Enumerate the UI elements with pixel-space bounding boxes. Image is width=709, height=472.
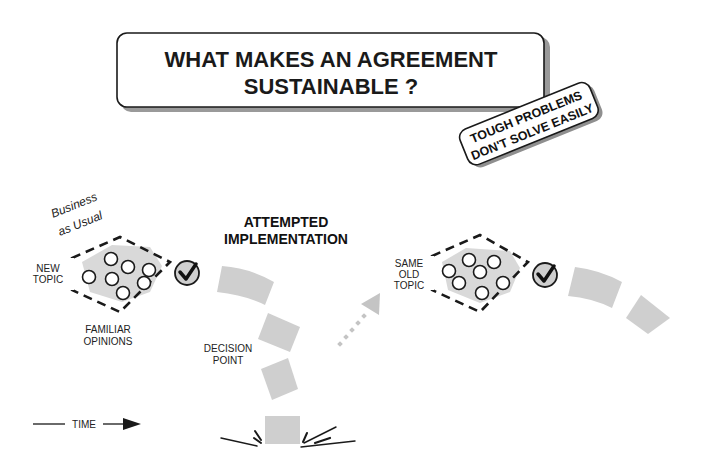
attempted-implementation: ATTEMPTED IMPLEMENTATION DECISION POINT xyxy=(204,214,380,447)
opinion-circle xyxy=(122,261,135,274)
timeline: TIME xyxy=(33,418,141,430)
falling-segment-right-2 xyxy=(626,295,670,334)
same-old-topic-line-3: TOPIC xyxy=(394,280,424,291)
arrow-head-icon xyxy=(361,293,380,315)
opinion-circle xyxy=(105,253,118,266)
falling-segment-1 xyxy=(217,266,274,305)
implementation-heading-line-1: ATTEMPTED xyxy=(244,214,329,230)
left-cluster: Business as Usual NEW TOPIC FAMILIAR OPI… xyxy=(33,190,199,347)
check-circle-icon xyxy=(533,263,557,287)
timeline-label: TIME xyxy=(72,419,96,430)
opinion-circle xyxy=(463,254,476,267)
opinion-circle xyxy=(497,277,510,290)
implementation-heading-line-2: IMPLEMENTATION xyxy=(224,231,348,247)
same-old-topic-line-1: SAME xyxy=(395,258,424,269)
decision-point-line-2: POINT xyxy=(213,355,244,366)
opinion-circle xyxy=(143,264,156,277)
opinion-circle xyxy=(138,277,151,290)
title-line-2: SUSTAINABLE ? xyxy=(244,74,418,99)
opinion-circle xyxy=(106,273,119,286)
title-box: WHAT MAKES AN AGREEMENT SUSTAINABLE ? xyxy=(117,33,550,112)
opinion-circle xyxy=(453,277,466,290)
opinion-circle xyxy=(117,287,130,300)
familiar-opinions-line-1: FAMILIAR xyxy=(85,324,131,335)
opinion-circle xyxy=(443,265,456,278)
return-arrow xyxy=(337,293,380,347)
same-old-topic-line-2: OLD xyxy=(399,269,420,280)
opinion-circle xyxy=(83,271,96,284)
diagram-canvas: WHAT MAKES AN AGREEMENT SUSTAINABLE ? TO… xyxy=(0,0,709,472)
opinion-circle xyxy=(474,266,487,279)
falling-segment-4 xyxy=(265,416,300,444)
opinion-circle xyxy=(476,287,489,300)
arrow-right-icon xyxy=(123,418,141,430)
new-topic-line-1: NEW xyxy=(36,263,60,274)
falling-segment-right-1 xyxy=(568,267,622,308)
title-line-1: WHAT MAKES AN AGREEMENT xyxy=(165,47,498,72)
falling-segment-2 xyxy=(258,313,300,352)
opinion-circle xyxy=(488,256,501,269)
familiar-opinions-line-2: OPINIONS xyxy=(84,336,133,347)
check-circle-icon xyxy=(175,261,199,285)
falling-segment-3 xyxy=(261,358,298,400)
new-topic-line-2: TOPIC xyxy=(33,274,63,285)
right-cluster: SAME OLD TOPIC xyxy=(394,235,670,334)
decision-point-line-1: DECISION xyxy=(204,343,252,354)
